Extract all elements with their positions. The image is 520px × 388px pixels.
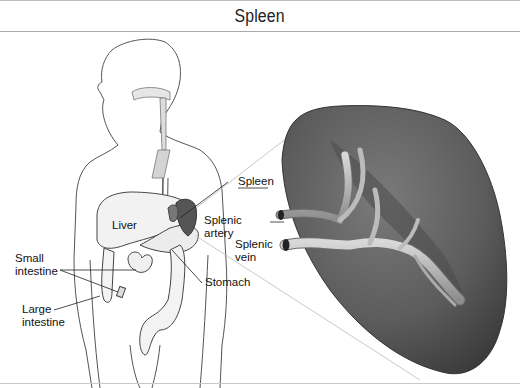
vein-opening — [283, 239, 290, 251]
label-splenic-vein-1: Splenic — [235, 238, 273, 251]
label-spleen: Spleen — [238, 175, 274, 188]
label-splenic-artery-2: artery — [204, 227, 233, 240]
label-splenic-artery-1: Splenic — [204, 214, 242, 227]
label-small-intestine-2: intestine — [15, 265, 58, 278]
label-small-intestine-1: Small — [15, 252, 44, 265]
bottom-divider — [0, 383, 520, 384]
label-large-intestine-2: intestine — [22, 316, 65, 329]
spleen-anatomy-illustration — [0, 0, 520, 388]
artery-opening — [278, 210, 284, 220]
label-splenic-vein-2: vein — [235, 251, 256, 264]
label-liver: Liver — [112, 219, 137, 232]
label-stomach: Stomach — [205, 276, 250, 289]
label-large-intestine-1: Large — [22, 303, 51, 316]
small-intestine-shape — [128, 252, 152, 272]
